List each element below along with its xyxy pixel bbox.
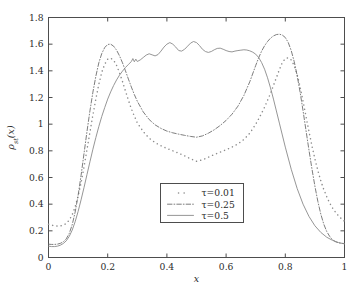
x-axis-title: x bbox=[194, 273, 200, 284]
x-tick-label: 0.8 bbox=[278, 261, 293, 272]
x-tick-label: 0.2 bbox=[100, 261, 115, 272]
legend[interactable]: τ=0.01τ=0.25τ=0.5 bbox=[161, 184, 244, 223]
y-tick-label: 1.6 bbox=[29, 38, 44, 49]
line-chart: 00.20.40.60.81 00.20.40.60.811.21.41.61.… bbox=[0, 0, 358, 291]
x-tick-label: 0 bbox=[46, 261, 52, 272]
y-tick-label: 1.2 bbox=[29, 92, 44, 103]
y-tick-label: 0.8 bbox=[29, 145, 44, 156]
y-tick-label: 0.2 bbox=[29, 225, 44, 236]
x-tick-label: 1 bbox=[342, 261, 348, 272]
y-tick-label: 0.6 bbox=[29, 172, 44, 183]
legend-label-dashdot[interactable]: τ=0.25 bbox=[202, 199, 235, 210]
chart-background bbox=[0, 0, 358, 291]
figure-container: 00.20.40.60.81 00.20.40.60.811.21.41.61.… bbox=[0, 0, 358, 291]
legend-label-solid[interactable]: τ=0.5 bbox=[202, 210, 230, 221]
y-tick-label: 1.4 bbox=[29, 65, 44, 76]
y-tick-label: 0.4 bbox=[29, 198, 44, 209]
y-tick-label: 1.8 bbox=[29, 12, 44, 23]
legend-label-dotted[interactable]: τ=0.01 bbox=[202, 187, 235, 198]
y-tick-label: 0 bbox=[38, 252, 44, 263]
x-tick-label: 0.6 bbox=[219, 261, 234, 272]
x-tick-label: 0.4 bbox=[160, 261, 175, 272]
y-tick-label: 1 bbox=[38, 118, 44, 129]
